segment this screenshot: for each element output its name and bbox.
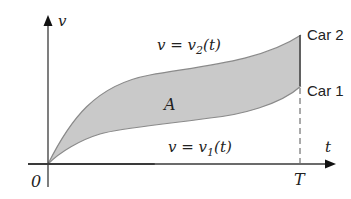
velocity-diagram: v t 0 T v = v2(t) v = v1(t) A Car 2 Car …	[0, 0, 351, 199]
v1-curve-label: v = v1(t)	[168, 138, 232, 159]
x-axis-arrow-icon	[325, 160, 336, 169]
y-axis-arrow-icon	[44, 15, 53, 26]
area-label: A	[162, 95, 176, 114]
v2-curve-label: v = v2(t)	[157, 36, 221, 57]
y-axis-label: v	[58, 12, 67, 30]
t-marker-label: T	[294, 170, 306, 189]
car2-label: Car 2	[307, 26, 344, 43]
origin-label: 0	[31, 172, 41, 191]
x-axis-label: t	[325, 138, 332, 156]
car1-label: Car 1	[307, 82, 344, 99]
